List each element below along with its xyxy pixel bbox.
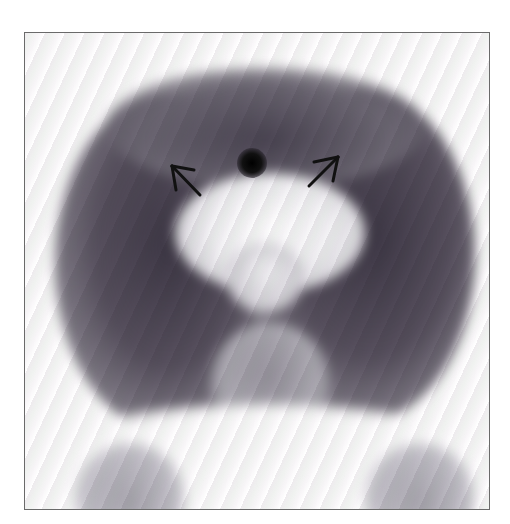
left-arrow-icon: [172, 166, 200, 195]
annotation-arrows: [0, 0, 510, 524]
right-arrow-icon: [309, 157, 338, 186]
